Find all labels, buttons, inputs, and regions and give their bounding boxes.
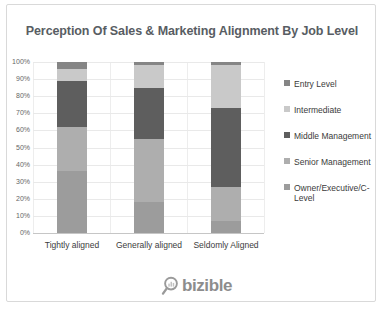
- y-axis-tick: 50%: [0, 144, 30, 152]
- y-axis-tick: 100%: [0, 58, 30, 66]
- y-axis-tick: 10%: [0, 212, 30, 220]
- bar-segment-senior-management: [57, 127, 87, 171]
- y-axis-tick: 20%: [0, 195, 30, 203]
- legend-swatch: [284, 106, 290, 112]
- bar-segment-senior-management: [134, 139, 164, 202]
- legend-item-intermediate: Intermediate: [284, 105, 380, 115]
- y-axis-tick: 70%: [0, 109, 30, 117]
- y-gridline: [33, 233, 264, 234]
- legend-label: Entry Level: [294, 79, 337, 89]
- legend-label: Intermediate: [294, 105, 341, 115]
- legend-item-owner-executive-c-level: Owner/Executive/C-Level: [284, 183, 380, 203]
- legend-item-middle-management: Middle Management: [284, 131, 380, 141]
- bar-segment-middle-management: [211, 108, 241, 187]
- bar-segment-intermediate: [211, 65, 241, 108]
- magnifier-icon: [160, 275, 181, 298]
- bar-segment-owner-executive-c-level: [134, 202, 164, 233]
- bizible-logo: bizible: [0, 273, 384, 299]
- legend-label: Owner/Executive/C-Level: [294, 183, 380, 203]
- logo-text: bizible: [182, 276, 232, 296]
- legend-swatch: [284, 184, 290, 190]
- y-axis-tick: 40%: [0, 161, 30, 169]
- plot-area: 0%10%20%30%40%50%60%70%80%90%100%Tightly…: [0, 0, 384, 311]
- bar-segment-senior-management: [211, 187, 241, 221]
- bar-segment-middle-management: [134, 88, 164, 139]
- bar-segment-entry-level: [134, 62, 164, 65]
- x-axis-label: Seldomly Aligned: [174, 240, 278, 250]
- bar-segment-owner-executive-c-level: [57, 171, 87, 233]
- legend-item-senior-management: Senior Management: [284, 157, 380, 167]
- y-axis-tick: 60%: [0, 126, 30, 134]
- vertical-gridline: [264, 62, 265, 233]
- legend-label: Middle Management: [294, 131, 371, 141]
- y-axis-tick: 80%: [0, 92, 30, 100]
- legend-item-entry-level: Entry Level: [284, 79, 380, 89]
- bar-segment-entry-level: [57, 62, 87, 69]
- legend-swatch: [284, 80, 290, 86]
- legend-label: Senior Management: [294, 157, 371, 167]
- bar-segment-middle-management: [57, 81, 87, 127]
- y-axis-tick: 30%: [0, 178, 30, 186]
- bar-segment-intermediate: [134, 65, 164, 87]
- bar-segment-entry-level: [211, 62, 241, 65]
- bar-segment-owner-executive-c-level: [211, 221, 241, 233]
- y-axis-tick: 0%: [0, 229, 30, 237]
- legend-swatch: [284, 132, 290, 138]
- legend-swatch: [284, 158, 290, 164]
- y-axis-tick: 90%: [0, 75, 30, 83]
- bar-segment-intermediate: [57, 69, 87, 81]
- chart-screenshot: Perception Of Sales & Marketing Alignmen…: [0, 0, 384, 311]
